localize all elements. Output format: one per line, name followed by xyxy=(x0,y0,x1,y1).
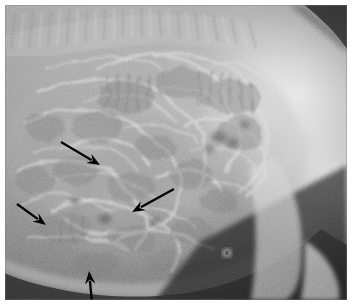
film-grain-layer xyxy=(5,5,347,300)
radiograph-plate xyxy=(5,5,347,300)
radiograph-figure xyxy=(0,0,352,305)
